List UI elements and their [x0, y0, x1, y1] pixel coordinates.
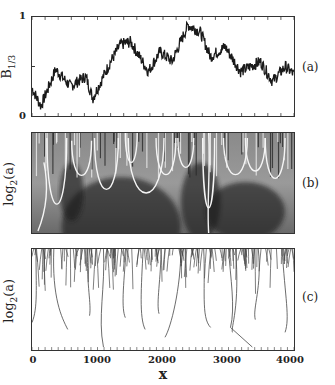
xtick-0: 0 — [30, 354, 37, 365]
panel-a-tag: (a) — [302, 60, 319, 74]
panel-b-heatmap — [32, 133, 294, 233]
panel-a-ytick-1: 1 — [19, 10, 26, 21]
panel-a-line-chart — [32, 17, 294, 116]
panel-c-skeleton — [32, 249, 294, 350]
panel-b-ylabel: log2(a) — [1, 162, 19, 206]
panel-c-ylabel: log2(a) — [1, 279, 19, 323]
panel-a-plot — [31, 16, 295, 117]
panel-b-plot — [31, 132, 295, 234]
panel-c-tag: (c) — [302, 290, 318, 304]
panel-a-ylabel: B1/3 — [0, 55, 17, 79]
panel-b-tag: (b) — [302, 176, 319, 190]
panel-c-plot — [31, 248, 295, 351]
panel-a-ytick-0: 0 — [19, 110, 26, 121]
xtick-3000: 3000 — [213, 354, 241, 365]
xtick-4000: 4000 — [276, 354, 304, 365]
x-axis-label: x — [159, 366, 167, 382]
xtick-2000: 2000 — [148, 354, 176, 365]
xtick-1000: 1000 — [83, 354, 111, 365]
